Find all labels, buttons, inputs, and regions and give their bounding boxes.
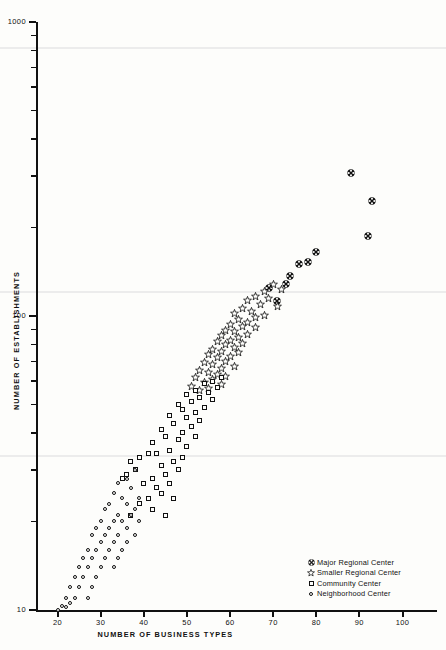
y-tick	[31, 361, 36, 363]
scan-band	[0, 455, 446, 457]
x-tick-label: 100	[396, 618, 410, 627]
data-point-community-center	[128, 459, 133, 464]
data-point-neighborhood-center	[133, 468, 137, 472]
data-point-neighborhood-center	[125, 526, 129, 530]
y-tick-label: 1000	[8, 17, 26, 26]
legend-item-neighborhood-center[interactable]: Neighborhood Center	[305, 589, 401, 600]
data-point-neighborhood-center	[64, 596, 68, 600]
data-point-neighborhood-center	[129, 513, 133, 517]
data-point-neighborhood-center	[112, 519, 116, 523]
data-point-community-center	[171, 421, 176, 426]
data-point-neighborhood-center	[90, 585, 94, 589]
data-point-neighborhood-center	[99, 565, 103, 569]
data-point-smaller-regional-center	[273, 297, 282, 306]
x-tick	[100, 610, 102, 617]
data-point-neighborhood-center	[68, 585, 72, 589]
data-point-community-center	[159, 463, 164, 468]
data-point-community-center	[146, 451, 151, 456]
legend-item-major-regional-center[interactable]: Major Regional Center	[305, 557, 401, 568]
data-point-smaller-regional-center	[251, 308, 260, 317]
data-point-neighborhood-center	[120, 496, 124, 500]
y-tick-label: 10	[17, 605, 26, 614]
data-point-neighborhood-center	[103, 556, 107, 560]
x-tick	[358, 610, 360, 617]
data-point-community-center	[210, 379, 215, 384]
data-point-neighborhood-center	[103, 507, 107, 511]
y-tick	[31, 329, 36, 331]
data-point-community-center	[202, 405, 207, 410]
y-tick	[31, 521, 36, 523]
data-point-community-center	[193, 410, 198, 415]
data-point-major-regional-center	[295, 254, 303, 262]
y-tick	[31, 380, 36, 382]
data-point-community-center	[176, 437, 181, 442]
legend-item-smaller-regional-center[interactable]: Smaller Regional Center	[305, 568, 401, 579]
data-point-neighborhood-center	[107, 548, 111, 552]
major-regional-center-marker-icon	[305, 559, 317, 566]
data-point-major-regional-center	[347, 163, 355, 171]
data-point-community-center	[180, 430, 185, 435]
data-point-neighborhood-center	[125, 502, 129, 506]
data-point-neighborhood-center	[116, 533, 120, 537]
data-point-neighborhood-center	[112, 540, 116, 544]
data-point-neighborhood-center	[56, 608, 60, 612]
data-point-community-center	[219, 375, 224, 380]
data-point-neighborhood-center	[90, 533, 94, 537]
data-point-community-center	[202, 381, 207, 386]
data-point-neighborhood-center	[107, 502, 111, 506]
data-point-neighborhood-center	[116, 513, 120, 517]
data-point-neighborhood-center	[125, 477, 129, 481]
data-point-community-center	[210, 397, 215, 402]
y-tick	[31, 110, 36, 112]
data-point-smaller-regional-center	[256, 295, 265, 304]
data-point-neighborhood-center	[64, 605, 68, 609]
data-point-neighborhood-center	[107, 526, 111, 530]
data-point-neighborhood-center	[94, 548, 98, 552]
y-tick	[31, 175, 36, 177]
data-point-neighborhood-center	[129, 486, 133, 490]
data-point-community-center	[184, 415, 189, 420]
data-point-neighborhood-center	[116, 556, 120, 560]
y-tick	[31, 86, 36, 88]
data-point-neighborhood-center	[73, 596, 77, 600]
data-point-community-center	[189, 424, 194, 429]
data-point-community-center	[159, 491, 164, 496]
data-point-neighborhood-center	[86, 548, 90, 552]
data-point-community-center	[137, 501, 142, 506]
legend-item-community-center[interactable]: Community Center	[305, 578, 401, 589]
data-point-neighborhood-center	[103, 533, 107, 537]
data-point-neighborhood-center	[137, 519, 141, 523]
data-point-community-center	[180, 407, 185, 412]
data-point-community-center	[197, 395, 202, 400]
x-tick-label: 70	[269, 618, 278, 627]
data-point-neighborhood-center	[120, 548, 124, 552]
data-point-neighborhood-center	[68, 601, 72, 605]
data-point-community-center	[215, 385, 220, 390]
x-axis-title: NUMBER OF BUSINESS TYPES	[97, 630, 233, 639]
x-tick-label: 50	[182, 618, 191, 627]
data-point-neighborhood-center	[125, 540, 129, 544]
data-point-neighborhood-center	[86, 565, 90, 569]
data-point-neighborhood-center	[90, 556, 94, 560]
data-point-community-center	[193, 434, 198, 439]
data-point-community-center	[176, 467, 181, 472]
data-point-major-regional-center	[368, 191, 376, 199]
data-point-neighborhood-center	[94, 526, 98, 530]
neighborhood-center-marker-icon	[305, 592, 317, 596]
data-point-neighborhood-center	[133, 507, 137, 511]
data-point-major-regional-center	[312, 242, 320, 250]
data-point-community-center	[150, 440, 155, 445]
data-point-community-center	[150, 476, 155, 481]
x-tick	[229, 610, 231, 617]
data-point-neighborhood-center	[120, 519, 124, 523]
data-point-smaller-regional-center	[234, 343, 243, 352]
data-point-neighborhood-center	[86, 596, 90, 600]
y-tick	[29, 315, 36, 317]
data-point-community-center	[167, 481, 172, 486]
y-tick	[31, 344, 36, 346]
data-point-smaller-regional-center	[251, 318, 260, 327]
y-tick	[31, 138, 36, 140]
data-point-community-center	[163, 434, 168, 439]
legend-item-label: Major Regional Center	[317, 558, 394, 567]
legend-item-label: Smaller Regional Center	[317, 568, 401, 577]
